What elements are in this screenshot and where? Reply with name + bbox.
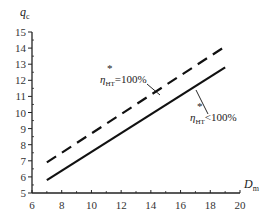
x-tick-label: 6: [29, 199, 35, 211]
y-tick-label: 11: [15, 90, 26, 102]
series-layer: [47, 46, 225, 180]
axes: 5678910111213141568101214161820qcDm: [15, 5, 260, 211]
y-axis-label: qc: [20, 5, 30, 21]
x-tick-label: 16: [175, 199, 187, 211]
y-tick-label: 5: [21, 187, 27, 199]
annotation-eta-lt-100: ηHT<100%: [190, 111, 237, 126]
x-tick-label: 12: [116, 199, 127, 211]
x-tick-label: 10: [86, 199, 98, 211]
y-tick-label: 15: [15, 26, 27, 38]
y-tick-label: 14: [15, 42, 27, 54]
annotation-eta-sup: *: [107, 62, 113, 74]
y-tick-label: 9: [21, 123, 27, 135]
annotation-eta-100: ηHT=100%: [100, 73, 147, 88]
x-axis-label-sub: m: [253, 184, 260, 193]
y-tick-label: 10: [15, 107, 27, 119]
x-tick-label: 18: [205, 199, 217, 211]
annotations-layer: ηHT=100%*ηHT<100%*: [100, 62, 237, 126]
y-axis-label-sub: c: [26, 12, 30, 21]
x-tick-label: 14: [145, 199, 157, 211]
y-tick-label: 8: [21, 139, 27, 151]
x-tick-label: 8: [59, 199, 65, 211]
y-tick-label: 13: [15, 58, 27, 70]
chart-canvas: 5678910111213141568101214161820qcDm ηHT=…: [0, 0, 276, 220]
x-axis-label: Dm: [243, 177, 260, 193]
annotation-eta-tail: <100%: [205, 111, 237, 123]
x-tick-label: 20: [235, 199, 247, 211]
y-tick-label: 6: [21, 171, 27, 183]
y-tick-label: 7: [21, 155, 27, 167]
y-tick-label: 12: [15, 74, 26, 86]
annotation-eta-sup: *: [197, 100, 203, 112]
annotation-eta-tail: =100%: [115, 73, 147, 85]
